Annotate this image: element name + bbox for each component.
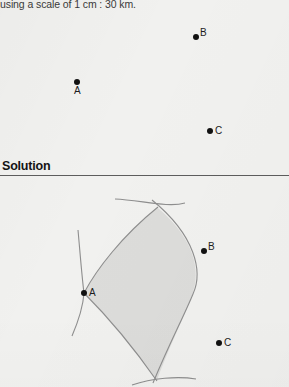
intro-text: using a scale of 1 cm : 30 km. <box>0 0 289 10</box>
point-label: A <box>74 86 81 96</box>
point-label: B <box>208 242 215 252</box>
point-dot <box>207 128 213 134</box>
textbook-page: using a scale of 1 cm : 30 km. B A C Sol… <box>0 0 289 387</box>
point-label: B <box>200 28 207 38</box>
solution-heading: Solution <box>2 159 50 173</box>
point-dot <box>193 34 199 40</box>
intersection-region <box>84 208 196 380</box>
point-label: A <box>89 288 96 298</box>
solution-divider <box>0 175 289 176</box>
solution-diagram: A B C <box>0 180 289 387</box>
point-dot <box>81 290 87 296</box>
point-dot <box>216 340 222 346</box>
point-label: C <box>215 126 222 136</box>
arc-left <box>72 230 84 336</box>
point-dot <box>201 248 207 254</box>
arc-bottom-short <box>132 378 196 385</box>
problem-diagram: B A C <box>0 14 289 150</box>
solution-construction-svg <box>0 180 289 387</box>
point-label: C <box>224 338 231 348</box>
arc-top-short <box>115 199 185 205</box>
